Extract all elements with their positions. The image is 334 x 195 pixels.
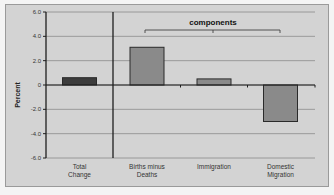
- bar-immigration: [197, 79, 231, 85]
- y-tick-label: -4.0: [31, 131, 42, 137]
- x-category-label: Migration: [267, 171, 294, 179]
- bar-domestic-migration: [264, 85, 298, 122]
- components-label: components: [189, 18, 237, 27]
- bar-total-change: [63, 78, 97, 85]
- x-axis-categories: TotalChangeBirths minusDeathsImmigration…: [68, 163, 295, 179]
- x-category-label: Immigration: [197, 163, 231, 171]
- x-category-label: Total: [73, 163, 87, 170]
- components-bracket: [145, 30, 280, 33]
- components-annotation: components: [145, 18, 280, 33]
- y-tick-label: -2.0: [31, 106, 42, 112]
- y-tick-label: 6.0: [33, 9, 42, 15]
- axes: [46, 12, 315, 158]
- bars: [63, 47, 298, 121]
- x-category-label: Deaths: [137, 171, 158, 178]
- y-tick-label: 2.0: [33, 58, 42, 64]
- bar-births-minus-deaths: [130, 47, 164, 85]
- y-axis-label: Percent: [14, 81, 21, 107]
- y-tick-label: 4.0: [33, 33, 42, 39]
- y-axis-ticks: 6.04.02.00-2.0-4.0-6.0: [31, 9, 46, 161]
- x-category-label: Change: [68, 171, 91, 179]
- bar-chart: Percent 6.04.02.00-2.0-4.0-6.0 TotalChan…: [0, 0, 334, 195]
- x-category-label: Domestic: [267, 163, 295, 170]
- y-tick-label: -6.0: [31, 155, 42, 161]
- y-tick-label: 0: [38, 82, 42, 88]
- x-category-label: Births minus: [129, 163, 166, 170]
